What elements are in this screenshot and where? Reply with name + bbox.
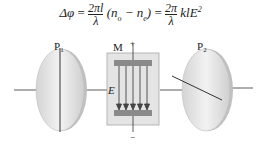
label-m: M xyxy=(113,41,123,53)
polarizer-1 xyxy=(36,48,87,132)
label-p1: P1 xyxy=(54,40,64,54)
pockels-diagram: P1 M + − E P2 xyxy=(0,0,261,147)
electro-optic-modulator xyxy=(107,44,159,132)
label-p2: P2 xyxy=(197,40,207,54)
label-e: E xyxy=(107,84,115,96)
label-minus: − xyxy=(130,132,135,142)
label-plus: + xyxy=(130,38,135,48)
positive-plate xyxy=(114,60,152,66)
